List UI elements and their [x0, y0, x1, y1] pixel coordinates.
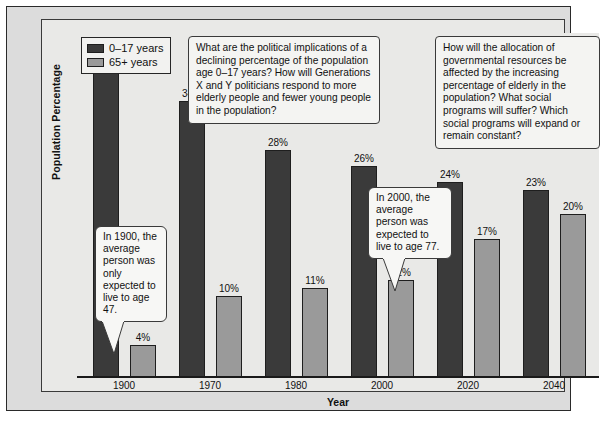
x-tick-2000: 2000 — [347, 380, 417, 391]
bar-rect — [179, 101, 205, 378]
callout-text: In 1900, the average person was only exp… — [95, 226, 167, 322]
x-tick-1980: 1980 — [261, 380, 331, 391]
legend-item-0-17: 0–17 years — [87, 41, 163, 55]
chart-panel: Population Percentage 40% 4% — [41, 19, 565, 392]
x-tick-2020: 2020 — [433, 380, 503, 391]
bar-value-label: 17% — [467, 226, 507, 237]
legend-item-65plus: 65+ years — [87, 55, 163, 69]
chart-legend: 0–17 years 65+ years — [81, 37, 171, 74]
legend-swatch-dark-icon — [87, 44, 104, 53]
annotation-political-implications: What are the political implications of a… — [188, 36, 380, 124]
bar-rect — [216, 296, 242, 378]
bar-value-label: 10% — [209, 283, 249, 294]
bar-value-label: 4% — [123, 332, 163, 343]
annotation-governmental-resources: How will the allocation of governmental … — [435, 36, 600, 149]
bar-value-label: 23% — [516, 177, 556, 188]
bar-rect — [265, 150, 291, 378]
callout-text: In 2000, the average person was expected… — [368, 187, 452, 259]
bar-value-label: 26% — [344, 153, 384, 164]
figure-outer-frame: Population Percentage 40% 4% — [6, 6, 571, 411]
bar-value-label: 20% — [553, 201, 593, 212]
x-axis-title: Year — [77, 396, 599, 408]
x-axis-line — [77, 376, 599, 378]
y-axis-title: Population Percentage — [50, 32, 62, 212]
legend-label: 0–17 years — [109, 42, 163, 54]
x-tick-1970: 1970 — [175, 380, 245, 391]
legend-label: 65+ years — [109, 56, 158, 68]
x-tick-1900: 1900 — [89, 380, 159, 391]
callout-1900-life-expectancy: In 1900, the average person was only exp… — [95, 226, 167, 322]
bar-value-label: 28% — [258, 137, 298, 148]
callout-pointer-1900-icon — [101, 321, 127, 355]
bar-rect — [474, 239, 500, 378]
bar-value-label: 24% — [430, 169, 470, 180]
bar-rect — [388, 280, 414, 378]
bar-value-label: 11% — [295, 275, 335, 286]
legend-swatch-light-icon — [87, 58, 104, 67]
callout-2000-life-expectancy: In 2000, the average person was expected… — [368, 187, 452, 259]
bar-rect — [130, 345, 156, 378]
x-tick-2040: 2040 — [519, 380, 589, 391]
bar-rect — [302, 288, 328, 378]
callout-pointer-2000-icon — [382, 258, 408, 292]
bar-rect — [523, 190, 549, 378]
bar-rect — [560, 214, 586, 378]
